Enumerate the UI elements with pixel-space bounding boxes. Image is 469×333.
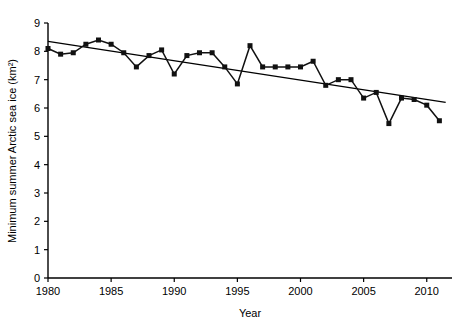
x-tick-label: 1980 [36, 285, 60, 297]
data-point-marker [58, 52, 63, 57]
data-point-marker [172, 72, 177, 77]
data-point-marker [121, 50, 126, 55]
data-point-marker [96, 38, 101, 43]
data-point-marker [412, 97, 417, 102]
x-tick-label: 1985 [99, 285, 123, 297]
y-tick-label: 4 [34, 159, 40, 171]
data-point-marker [374, 90, 379, 95]
data-point-marker [386, 121, 391, 126]
data-series-line [48, 40, 439, 124]
y-axis-ticks: 0123456789 [34, 17, 48, 284]
x-tick-label: 1995 [225, 285, 249, 297]
y-tick-label: 5 [34, 130, 40, 142]
data-point-marker [437, 118, 442, 123]
data-point-marker [210, 50, 215, 55]
x-tick-label: 2010 [415, 285, 439, 297]
y-tick-label: 0 [34, 272, 40, 284]
x-tick-label: 1990 [162, 285, 186, 297]
x-tick-label: 2000 [288, 285, 312, 297]
data-point-marker [311, 59, 316, 64]
data-point-marker [235, 81, 240, 86]
data-point-marker [349, 77, 354, 82]
y-tick-label: 1 [34, 244, 40, 256]
data-point-marker [361, 96, 366, 101]
trend-line [48, 41, 446, 102]
x-axis-ticks: 1980198519901995200020052010 [36, 278, 439, 297]
data-point-marker [159, 47, 164, 52]
data-point-marker [273, 64, 278, 69]
chart-page: 0123456789 1980198519901995200020052010 … [0, 0, 469, 333]
data-point-marker [134, 64, 139, 69]
data-point-marker [71, 50, 76, 55]
y-tick-label: 6 [34, 102, 40, 114]
data-point-marker [109, 42, 114, 47]
data-point-marker [248, 43, 253, 48]
data-point-marker [260, 64, 265, 69]
y-tick-label: 2 [34, 215, 40, 227]
data-point-marker [46, 46, 51, 51]
y-tick-label: 3 [34, 187, 40, 199]
x-tick-label: 2005 [351, 285, 375, 297]
data-point-marker [147, 53, 152, 58]
y-tick-label: 9 [34, 17, 40, 29]
data-point-marker [336, 77, 341, 82]
data-point-marker [323, 83, 328, 88]
data-point-marker [424, 103, 429, 108]
y-tick-label: 7 [34, 74, 40, 86]
data-point-marker [298, 64, 303, 69]
data-point-marker [83, 42, 88, 47]
x-axis-title: Year [239, 307, 262, 319]
y-axis-title: Minimum summer Arctic sea ice (km²) [6, 59, 18, 243]
data-point-marker [197, 50, 202, 55]
data-point-marker [399, 96, 404, 101]
y-tick-label: 8 [34, 45, 40, 57]
data-point-marker [184, 53, 189, 58]
data-point-marker [222, 64, 227, 69]
arctic-sea-ice-line-chart: 0123456789 1980198519901995200020052010 … [0, 0, 469, 333]
data-point-marker [285, 64, 290, 69]
